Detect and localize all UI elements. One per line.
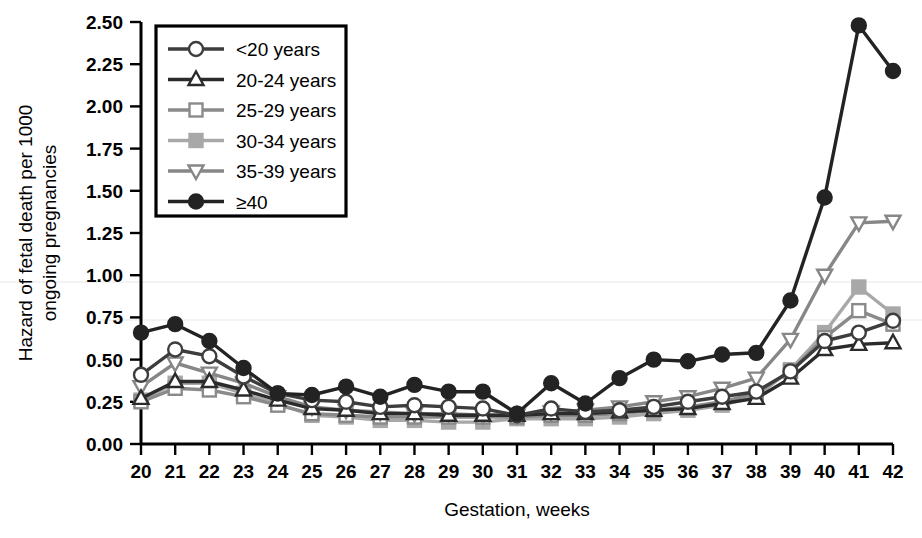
series-marker (442, 385, 456, 399)
x-tick-label: 20 (130, 461, 151, 482)
y-tick-label: 0.50 (86, 350, 123, 371)
x-tick-label: 36 (677, 461, 698, 482)
series-marker (339, 395, 353, 409)
x-tick-label: 22 (199, 461, 220, 482)
series-marker (578, 396, 592, 410)
series-marker (168, 317, 182, 331)
series-marker (647, 400, 661, 414)
series-line (141, 311, 893, 417)
x-tick-label: 30 (472, 461, 493, 482)
series-marker (749, 346, 763, 360)
series-marker (817, 270, 832, 284)
x-tick-label: 41 (848, 461, 870, 482)
y-tick-label: 0.00 (86, 434, 123, 455)
legend-label: 35-39 years (236, 161, 336, 182)
x-tick-label: 34 (609, 461, 631, 482)
x-tick-label: 33 (575, 461, 596, 482)
y-tick-label: 1.25 (86, 223, 123, 244)
x-tick-label: 28 (404, 461, 425, 482)
x-tick-label: 38 (746, 461, 767, 482)
series-marker (476, 385, 490, 399)
series-marker (510, 407, 524, 421)
x-tick-label: 26 (336, 461, 357, 482)
chart-container: 0.000.250.500.751.001.251.501.752.002.25… (0, 0, 922, 538)
series-marker (373, 390, 387, 404)
series-marker (886, 314, 900, 328)
series-line (141, 321, 893, 416)
series-marker (134, 368, 148, 382)
legend-marker (189, 195, 203, 209)
legend-label: 25-29 years (236, 100, 336, 121)
series-marker (818, 334, 832, 348)
y-axis: 0.000.250.500.751.001.251.501.752.002.25… (86, 12, 141, 455)
series-marker (168, 342, 182, 356)
legend-marker (189, 42, 203, 56)
x-tick-label: 42 (882, 461, 903, 482)
y-tick-label: 2.50 (86, 12, 123, 33)
series-marker (647, 353, 661, 367)
series-marker (852, 281, 865, 294)
legend-label: ≥40 (236, 192, 268, 213)
series-marker (271, 386, 285, 400)
x-tick-label: 35 (643, 461, 665, 482)
series-marker (544, 402, 558, 416)
x-tick-label: 21 (165, 461, 187, 482)
x-tick-label: 39 (780, 461, 801, 482)
x-tick-label: 24 (267, 461, 289, 482)
series-marker (715, 390, 729, 404)
legend-label: <20 years (236, 39, 320, 60)
y-tick-label: 2.00 (86, 96, 123, 117)
series-marker (749, 385, 763, 399)
y-tick-label: 1.75 (86, 139, 123, 160)
series-marker (407, 378, 421, 392)
series-marker (613, 371, 627, 385)
x-tick-label: 37 (712, 461, 733, 482)
series-marker (339, 380, 353, 394)
y-tick-label: 0.25 (86, 392, 123, 413)
series-marker (202, 334, 216, 348)
series-marker (442, 400, 456, 414)
legend-marker (190, 134, 203, 147)
series-marker (134, 326, 148, 340)
x-axis: 2021222324252627282930313233343536373839… (130, 444, 903, 482)
x-tick-label: 29 (438, 461, 459, 482)
x-tick-label: 27 (370, 461, 391, 482)
legend-label: 20-24 years (236, 70, 336, 91)
x-tick-label: 31 (506, 461, 528, 482)
series-marker (783, 294, 797, 308)
series-marker (852, 326, 866, 340)
x-tick-label: 32 (541, 461, 562, 482)
y-tick-label: 0.75 (86, 307, 123, 328)
legend-marker (190, 104, 203, 117)
series-marker (613, 403, 627, 417)
y-axis-title: Hazard of fetal death per 1000ongoing pr… (15, 105, 60, 362)
series-marker (886, 64, 900, 78)
line-chart-plot: 0.000.250.500.751.001.251.501.752.002.25… (0, 0, 922, 538)
x-tick-label: 25 (301, 461, 323, 482)
x-axis-title: Gestation, weeks (444, 499, 590, 520)
series-line (141, 287, 893, 422)
x-tick-label: 40 (814, 461, 835, 482)
y-tick-label: 2.25 (86, 54, 123, 75)
y-tick-label: 1.50 (86, 181, 123, 202)
legend-label: 30-34 years (236, 131, 336, 152)
series-marker (544, 376, 558, 390)
x-tick-label: 23 (233, 461, 254, 482)
chart-legend: <20 years20-24 years25-29 years30-34 yea… (156, 26, 346, 216)
series-marker (681, 354, 695, 368)
series-marker (783, 364, 797, 378)
series-marker (407, 398, 421, 412)
series-marker (681, 395, 695, 409)
series-marker (715, 348, 729, 362)
series-marker (202, 349, 216, 363)
series-marker (305, 388, 319, 402)
y-tick-label: 1.00 (86, 265, 123, 286)
series-marker (237, 361, 251, 375)
series-marker (852, 18, 866, 32)
series-marker (476, 402, 490, 416)
series-marker (852, 304, 865, 317)
series-marker (818, 191, 832, 205)
